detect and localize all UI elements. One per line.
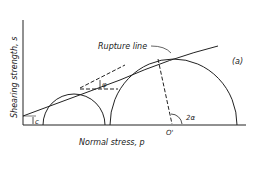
large-mohr-circle <box>110 59 237 125</box>
rupture-line <box>23 46 218 116</box>
radius-line <box>158 59 172 124</box>
rupture-label: Rupture line <box>98 42 147 51</box>
center-label: O' <box>166 129 174 137</box>
small-mohr-circle <box>43 94 105 125</box>
cohesion-label: c <box>35 118 39 126</box>
two-alpha-arc <box>171 114 182 124</box>
panel-label: (a) <box>232 57 243 66</box>
x-axis-label: Normal stress, p <box>79 138 145 147</box>
phi-label: φ <box>102 81 107 89</box>
angle-label: 2α <box>186 114 195 122</box>
y-axis-label: Shearing strength, s <box>10 37 19 118</box>
mohr-circle-diagram: Rupture line (a) c φ O' 2α Normal stress… <box>0 0 257 181</box>
